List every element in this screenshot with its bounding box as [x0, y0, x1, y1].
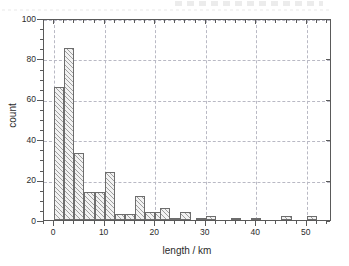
x-tick-label: 40 [240, 228, 270, 237]
x-tick-minor [124, 220, 125, 224]
x-tick-major [53, 220, 54, 226]
histogram-bar [84, 192, 94, 220]
y-tick-minor [40, 130, 44, 131]
x-tick-top [104, 20, 105, 24]
x-tick-minor-top [124, 20, 125, 23]
x-tick-minor [195, 220, 196, 224]
scan-artifact-strip [175, 1, 323, 6]
y-tick-minor [40, 49, 44, 50]
x-tick-label: 30 [190, 228, 220, 237]
x-tick-minor [94, 220, 95, 224]
x-tick-minor [296, 220, 297, 224]
scan-artifact-line [2, 9, 332, 11]
x-tick-minor [174, 220, 175, 224]
y-tick-minor [40, 80, 44, 81]
y-tick-label: 20 [6, 176, 36, 185]
x-tick-minor-top [316, 20, 317, 23]
x-tick-minor [215, 220, 216, 224]
x-tick-label: 10 [89, 228, 119, 237]
y-tick-minor [40, 150, 44, 151]
x-tick-major [306, 220, 307, 226]
x-tick-minor-top [174, 20, 175, 23]
histogram-bar [64, 48, 74, 220]
x-tick-minor [144, 220, 145, 224]
x-tick-minor [114, 220, 115, 224]
x-tick-minor [286, 220, 287, 224]
y-tick-minor [40, 160, 44, 161]
x-tick-minor-top [94, 20, 95, 23]
x-tick-top [205, 20, 206, 24]
y-tick-minor [40, 70, 44, 71]
histogram-figure: 02040608010001020304050 length / km coun… [0, 0, 349, 266]
x-tick-minor-top [63, 20, 64, 23]
y-tick-major [37, 100, 43, 101]
x-tick-major [255, 220, 256, 226]
x-tick-minor [63, 220, 64, 224]
x-tick-minor [326, 220, 327, 224]
y-tick-label: 100 [6, 15, 36, 24]
x-tick-minor-top [43, 20, 44, 23]
x-tick-top [255, 20, 256, 24]
x-tick-label: 0 [38, 228, 68, 237]
y-tick-minor [40, 191, 44, 192]
y-tick-minor [40, 211, 44, 212]
x-tick-label: 20 [139, 228, 169, 237]
histogram-bar [170, 218, 180, 220]
y-axis-title: count [7, 86, 18, 146]
x-tick-minor-top [225, 20, 226, 23]
y-tick-major [37, 59, 43, 60]
x-tick-minor [184, 220, 185, 224]
x-tick-minor-top [134, 20, 135, 23]
x-tick-label: 50 [291, 228, 321, 237]
y-tick-minor [40, 39, 44, 40]
x-tick-top [53, 20, 54, 24]
y-tick-major [37, 140, 43, 141]
x-tick-minor-top [144, 20, 145, 23]
y-tick-minor [40, 110, 44, 111]
x-tick-minor [225, 220, 226, 224]
x-tick-major [154, 220, 155, 226]
histogram-bar [281, 216, 291, 220]
y-tick-right [326, 140, 330, 141]
x-tick-minor-top [265, 20, 266, 23]
x-tick-minor [316, 220, 317, 224]
x-tick-major [104, 220, 105, 226]
histogram-bar [74, 153, 84, 220]
histogram-bar [95, 192, 105, 220]
x-tick-minor-top [73, 20, 74, 23]
x-tick-minor-top [184, 20, 185, 23]
x-tick-minor-top [296, 20, 297, 23]
x-tick-minor-top [83, 20, 84, 23]
y-tick-label: 0 [6, 217, 36, 226]
x-tick-minor-top [235, 20, 236, 23]
x-tick-minor [83, 220, 84, 224]
histogram-bar [105, 172, 115, 220]
x-tick-minor-top [164, 20, 165, 23]
histogram-bar [180, 212, 190, 220]
y-tick-minor [40, 201, 44, 202]
x-tick-minor [43, 220, 44, 224]
x-tick-minor [235, 220, 236, 224]
y-tick-right [326, 59, 330, 60]
x-tick-minor-top [114, 20, 115, 23]
y-tick-minor [40, 29, 44, 30]
x-tick-top [154, 20, 155, 24]
histogram-bar [160, 208, 170, 220]
x-tick-minor-top [326, 20, 327, 23]
histogram-bar [54, 87, 64, 220]
x-tick-minor-top [245, 20, 246, 23]
histogram-bar [145, 212, 155, 220]
y-tick-minor [40, 171, 44, 172]
y-tick-label: 80 [6, 55, 36, 64]
y-tick-minor [40, 90, 44, 91]
x-tick-minor-top [286, 20, 287, 23]
x-tick-minor [275, 220, 276, 224]
x-tick-top [306, 20, 307, 24]
y-tick-right [326, 100, 330, 101]
plot-area [43, 19, 331, 221]
x-tick-minor [134, 220, 135, 224]
y-tick-major [37, 181, 43, 182]
x-tick-minor [73, 220, 74, 224]
x-tick-minor [245, 220, 246, 224]
x-tick-minor-top [195, 20, 196, 23]
